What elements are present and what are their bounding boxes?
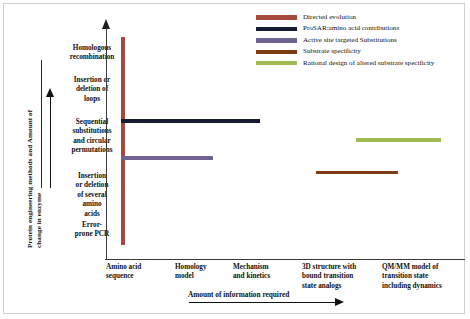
y-category-label-homologous-recombination: Homologous recombination: [62, 44, 122, 63]
legend-item-prosar[interactable]: ProSAR:amino acid contributions: [256, 23, 466, 34]
change-in-enzyme-arrow-head: [46, 88, 54, 97]
legend-label-substrate-specificity: Substrate specificity: [303, 46, 361, 57]
x-category-label-amino-acid-sequence: Amino acid sequence: [106, 263, 164, 282]
bar-substrate-specificity[interactable]: [316, 171, 398, 175]
legend-swatch-directed-evolution: [256, 15, 297, 19]
y-axis-title-line1: Protein engineering methods and Amount o…: [26, 110, 35, 248]
legend-swatch-active-site: [256, 38, 297, 42]
x-category-label-mechanism-and-kinetics: Mechanism and kinetics: [233, 263, 297, 282]
legend-item-substrate-specificity[interactable]: Substrate specificity: [256, 46, 466, 57]
legend-item-directed-evolution[interactable]: Directed evolution: [256, 12, 466, 23]
legend-swatch-rational-design: [256, 61, 297, 65]
legend-label-directed-evolution: Directed evolution: [303, 12, 356, 23]
y-category-label-error-prone-pcr: Error- prone PCR: [62, 221, 122, 240]
bar-rational-design-altered-substrate-specificity[interactable]: [356, 138, 441, 142]
x-axis-title: Amount of information required: [188, 290, 289, 299]
y-axis-line: [106, 28, 107, 260]
x-axis-line: [105, 259, 465, 260]
x-category-label-qm-mm-model: QM/MM model of transition state includin…: [382, 263, 468, 291]
legend-item-active-site[interactable]: Active site targeted Substitutions: [256, 35, 466, 46]
change-in-enzyme-arrow-shaft: [50, 96, 51, 188]
y-category-label-sequential-substitutions: Sequential substitutions and circular pe…: [62, 118, 122, 156]
x-category-label-3d-structure: 3D structure with bound transition state…: [302, 263, 382, 291]
legend-label-active-site: Active site targeted Substitutions: [303, 35, 397, 46]
x-axis-title-arrow-head: [335, 298, 344, 306]
legend-swatch-substrate-specificity: [256, 50, 297, 54]
legend-item-rational-design[interactable]: Rational design of altered substrate spe…: [256, 58, 466, 69]
bar-prosar-amino-acid-contributions[interactable]: [121, 119, 260, 123]
bar-active-site-targeted-substitutions[interactable]: [121, 156, 213, 160]
chart-legend: Directed evolution ProSAR:amino acid con…: [256, 12, 466, 69]
x-category-label-homology-model: Homology model: [175, 263, 233, 282]
x-axis-title-arrow-shaft: [189, 302, 337, 303]
bar-directed-evolution[interactable]: [121, 37, 126, 245]
legend-swatch-prosar: [256, 27, 297, 31]
y-category-label-insertion-deletion-loops: Insertion or deletion of loops: [62, 76, 122, 104]
y-category-label-insertion-deletion-amino-acids: Insertion or deletion of several amino a…: [62, 172, 122, 219]
chart-figure: Protein engineering methods and Amount o…: [0, 0, 470, 319]
legend-label-prosar: ProSAR:amino acid contributions: [303, 23, 399, 34]
y-axis-bracket-rule: [41, 60, 42, 188]
legend-label-rational-design: Rational design of altered substrate spe…: [303, 58, 434, 69]
